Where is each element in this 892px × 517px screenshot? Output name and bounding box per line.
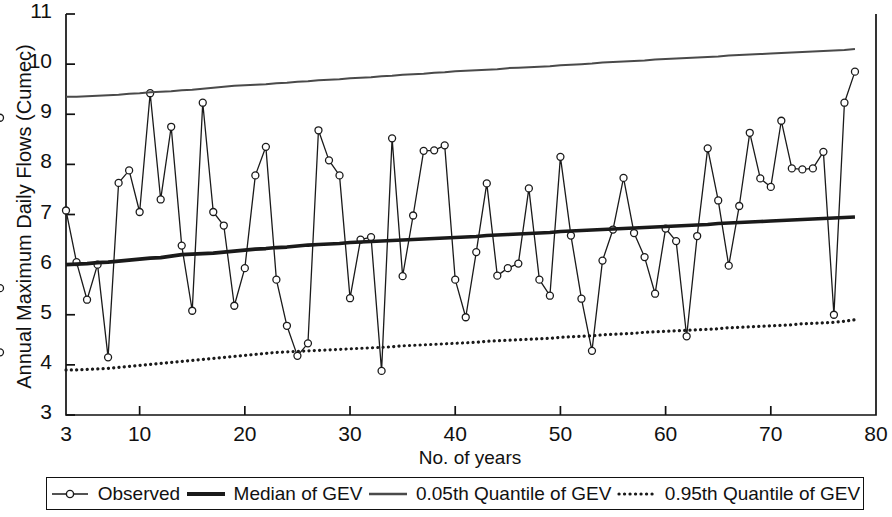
y-tick-label: 7 <box>12 200 52 224</box>
y-tick-label: 4 <box>12 350 52 374</box>
y-tick-label: 6 <box>12 250 52 274</box>
legend-thick-line-icon <box>186 486 226 502</box>
x-tick-label: 10 <box>110 422 170 446</box>
legend-entry[interactable]: Median of GEV <box>186 483 363 505</box>
y-tick-label: 8 <box>12 149 52 173</box>
x-tick-label: 3 <box>36 422 96 446</box>
series-median-of-gev <box>66 217 855 265</box>
x-tick-label: 80 <box>846 422 892 446</box>
x-tick-label: 20 <box>215 422 275 446</box>
legend-label: Observed <box>98 483 180 505</box>
y-tick-label: 9 <box>12 99 52 123</box>
legend-label: 0.95th Quantile of GEV <box>665 483 860 505</box>
y-tick-label: 11 <box>12 0 52 23</box>
series-0-95th-quantile-of-gev <box>66 320 855 370</box>
x-tick-label: 30 <box>320 422 380 446</box>
legend-label: Median of GEV <box>234 483 363 505</box>
x-axis-title: No. of years <box>60 447 880 469</box>
chart-figure: Annual Maximum Daily Flows (Cumec) No. o… <box>0 0 892 517</box>
legend-dotted-line-icon <box>617 486 657 502</box>
y-tick-label: 10 <box>12 49 52 73</box>
legend-entry[interactable]: Observed <box>50 483 180 505</box>
x-tick-label: 60 <box>636 422 696 446</box>
legend-thin-line-icon <box>368 486 408 502</box>
legend-entry[interactable]: 0.95th Quantile of GEV <box>617 483 860 505</box>
y-tick-label: 3 <box>12 400 52 424</box>
x-tick-label: 50 <box>530 422 590 446</box>
legend-label: 0.05th Quantile of GEV <box>416 483 611 505</box>
x-tick-label: 40 <box>425 422 485 446</box>
legend-circle-line-icon <box>50 486 90 502</box>
chart-legend: ObservedMedian of GEV0.05th Quantile of … <box>46 477 864 510</box>
y-tick-label: 5 <box>12 300 52 324</box>
series-0-05th-quantile-of-gev <box>66 49 855 97</box>
legend-entry[interactable]: 0.05th Quantile of GEV <box>368 483 611 505</box>
x-tick-label: 70 <box>741 422 801 446</box>
